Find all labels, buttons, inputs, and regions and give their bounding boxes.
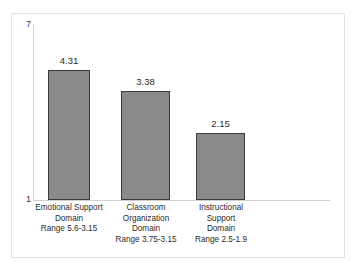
x-axis-line [33, 200, 330, 201]
bar-classroom-organization-domain [121, 91, 170, 200]
category-label-line: Support [180, 214, 262, 225]
category-label-line: Range 3.75-3.15 [104, 235, 188, 246]
bar-instructional-support-domain [196, 133, 245, 200]
bar-emotional-support-domain [48, 70, 90, 200]
category-label-line: Domain [26, 214, 112, 225]
category-label-classroom-organization-domain: Classroom Organization Domain Range 3.75… [104, 203, 188, 245]
category-label-line: Emotional Support [26, 203, 112, 214]
category-label-line: Domain [180, 224, 262, 235]
y-axis-max-tick-label: 7 [17, 19, 31, 29]
category-label-emotional-support-domain: Emotional Support Domain Range 5.6-3.15 [26, 203, 112, 235]
bar-value-label-classroom-organization-domain: 3.38 [121, 76, 170, 87]
category-label-line: Range 2.5-1.9 [180, 235, 262, 246]
category-label-line: Instructional [180, 203, 262, 214]
bar-chart: 7 1 4.31 Emotional Support Domain Range … [0, 0, 358, 270]
y-axis-line [33, 24, 34, 200]
bar-value-label-emotional-support-domain: 4.31 [48, 55, 90, 66]
category-label-instructional-support-domain: Instructional Support Domain Range 2.5-1… [180, 203, 262, 245]
category-label-line: Range 5.6-3.15 [26, 224, 112, 235]
category-label-line: Domain [104, 224, 188, 235]
bar-value-label-instructional-support-domain: 2.15 [196, 118, 245, 129]
category-label-line: Classroom [104, 203, 188, 214]
category-label-line: Organization [104, 214, 188, 225]
